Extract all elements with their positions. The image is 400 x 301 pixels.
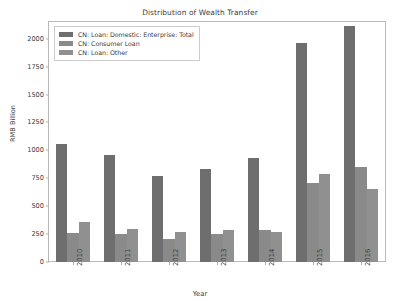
- bar: [355, 167, 367, 262]
- bar: [296, 43, 308, 262]
- x-tick-label: 2014: [268, 249, 276, 266]
- bar: [344, 26, 356, 262]
- chart-figure: Distribution of Wealth Transfer RMB Bill…: [0, 0, 400, 301]
- legend-swatch-icon: [59, 41, 73, 46]
- x-tick-mark: [265, 262, 266, 265]
- legend-label: CN: Loan: Other: [78, 49, 128, 56]
- bar: [248, 158, 260, 262]
- chart-title: Distribution of Wealth Transfer: [0, 8, 400, 17]
- y-tick-mark: [46, 206, 49, 207]
- legend-item: CN: Loan: Domestic: Enterprise: Total: [59, 30, 194, 39]
- x-tick-label: 2016: [364, 249, 372, 266]
- bar: [200, 169, 212, 262]
- legend-item: CN: Loan: Other: [59, 48, 194, 57]
- y-tick-mark: [46, 38, 49, 39]
- x-tick-label: 2013: [220, 249, 228, 266]
- chart-legend: CN: Loan: Domestic: Enterprise: TotalCN:…: [54, 26, 200, 61]
- bar: [56, 144, 68, 262]
- x-tick-label: 2012: [172, 249, 180, 266]
- x-tick-mark: [73, 262, 74, 265]
- bar: [152, 176, 164, 263]
- legend-label: CN: Consumer Loan: [78, 40, 140, 47]
- y-tick-mark: [46, 94, 49, 95]
- x-tick-mark: [313, 262, 314, 265]
- y-axis-label: RMB Billion: [9, 105, 17, 142]
- x-tick-mark: [361, 262, 362, 265]
- x-tick-label: 2015: [316, 249, 324, 266]
- x-tick-mark: [121, 262, 122, 265]
- x-tick-label: 2010: [76, 249, 84, 266]
- x-tick-mark: [217, 262, 218, 265]
- bar: [104, 155, 116, 262]
- legend-label: CN: Loan: Domestic: Enterprise: Total: [78, 31, 194, 38]
- legend-swatch-icon: [59, 50, 73, 55]
- y-tick-mark: [46, 262, 49, 263]
- y-tick-mark: [46, 66, 49, 67]
- y-tick-mark: [46, 178, 49, 179]
- x-tick-mark: [169, 262, 170, 265]
- legend-swatch-icon: [59, 32, 73, 37]
- legend-item: CN: Consumer Loan: [59, 39, 194, 48]
- y-tick-mark: [46, 150, 49, 151]
- x-tick-label: 2011: [124, 249, 132, 266]
- x-axis-label: Year: [0, 290, 400, 298]
- y-tick-mark: [46, 122, 49, 123]
- y-tick-mark: [46, 234, 49, 235]
